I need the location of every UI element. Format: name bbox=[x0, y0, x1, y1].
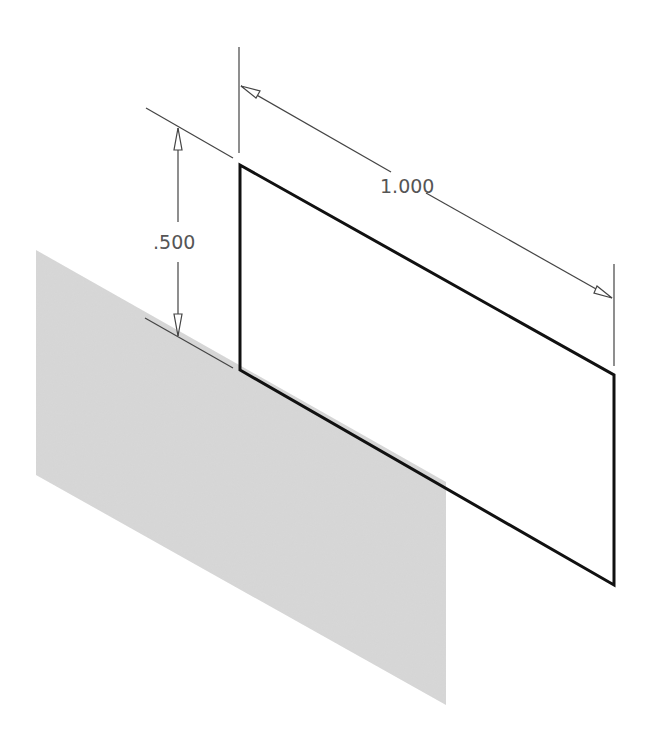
extension-line-top bbox=[146, 108, 233, 158]
sketch-canvas: .500 1.000 bbox=[0, 0, 651, 731]
width-dimension-label[interactable]: 1.000 bbox=[380, 175, 434, 197]
width-dimension[interactable]: 1.000 bbox=[239, 47, 614, 366]
arrowhead-up-icon bbox=[174, 128, 182, 150]
dimension-line-upper bbox=[241, 86, 391, 172]
arrowhead-left-icon bbox=[241, 86, 260, 98]
height-dimension-label[interactable]: .500 bbox=[153, 231, 195, 253]
arrowhead-right-icon bbox=[594, 286, 612, 298]
dimension-line-lower bbox=[426, 193, 612, 298]
